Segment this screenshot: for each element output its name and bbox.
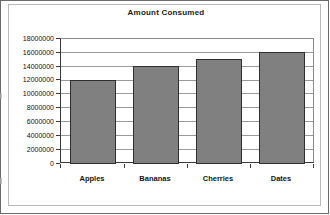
x-axis-labels: Apples Bananas Cherries Dates <box>0 0 330 215</box>
x-axis-category-label-apples: Apples <box>60 174 124 183</box>
chart-screenshot: Amount Consumed 18000000 16000000 140000… <box>0 0 330 215</box>
x-axis-category-label-cherries: Cherries <box>186 174 250 183</box>
x-axis-category-label-dates: Dates <box>249 174 313 183</box>
x-axis-category-label-bananas: Bananas <box>123 174 187 183</box>
